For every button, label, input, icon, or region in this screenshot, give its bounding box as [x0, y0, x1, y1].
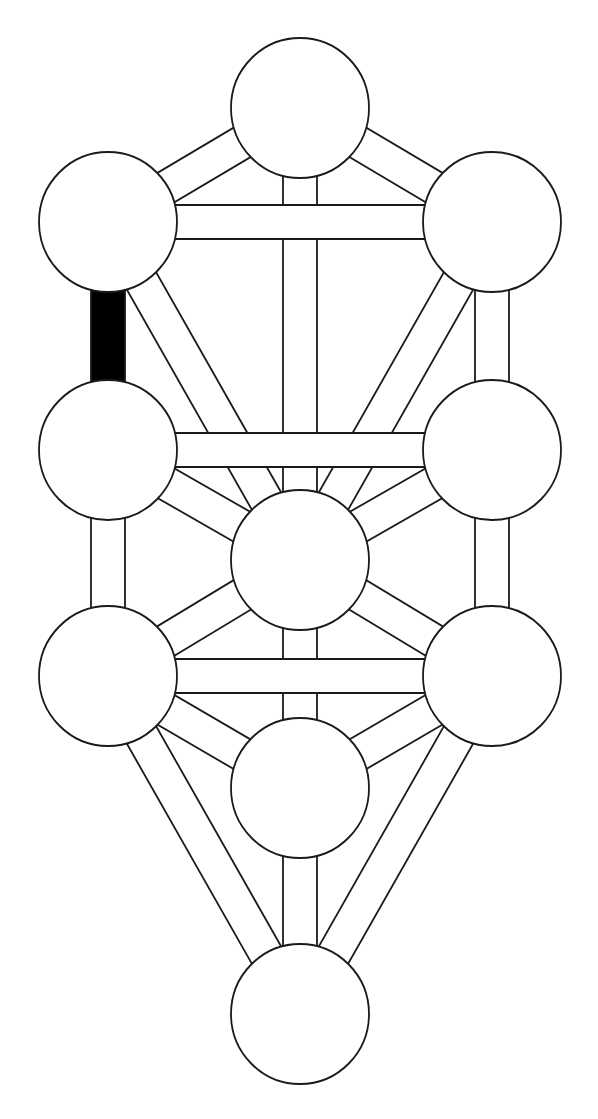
- sephirah-tiphareth: [231, 490, 369, 630]
- diagram-canvas: [0, 0, 598, 1119]
- sephirah-yesod: [231, 718, 369, 858]
- sephirah-malkuth: [231, 944, 369, 1084]
- sephirah-chesed: [423, 380, 561, 520]
- sephirah-netzach: [423, 606, 561, 746]
- sephirah-hod: [39, 606, 177, 746]
- tree-of-life-diagram: [0, 0, 598, 1119]
- sephirah-binah: [39, 152, 177, 292]
- sephirah-geburah: [39, 380, 177, 520]
- sephirah-chokmah: [423, 152, 561, 292]
- sephirah-kether: [231, 38, 369, 178]
